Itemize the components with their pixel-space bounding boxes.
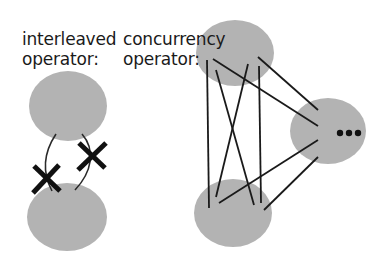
interleaved-label-line2: operator: xyxy=(22,49,116,69)
cross-icon xyxy=(78,143,106,170)
interleaved-label-line1: interleaved xyxy=(22,29,116,49)
concurrency-label-line2: operator: xyxy=(123,49,225,69)
interleaved-operator-label: interleaved operator: xyxy=(22,29,116,69)
ellipsis-icon xyxy=(337,130,361,136)
interleaved-top-node xyxy=(29,71,107,141)
interleaved-diagram xyxy=(27,71,107,251)
concurrency-operator-label: concurrency operator: xyxy=(123,29,225,69)
concurrency-right-node xyxy=(290,98,366,164)
interleaved-bottom-node xyxy=(27,183,107,251)
concurrency-label-line1: concurrency xyxy=(123,29,225,49)
